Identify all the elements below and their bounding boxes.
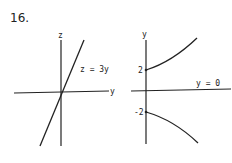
lower-intercept-label: -2 [134,108,144,117]
y-axis-label: y [110,87,115,96]
z-axis-label: z [58,31,63,40]
upper-intercept-label: 2 [138,66,143,75]
line-z-equals-3y [40,40,84,146]
left-figure: z y z = 3y [14,31,115,146]
upper-curve [146,38,197,70]
upper-intercept-point [145,69,148,72]
line-label: z = 3y [80,65,109,74]
asymptote-label: y = 0 [196,79,220,88]
y-axis-label-right: y [142,30,147,39]
figures: z y z = 3y y 2 -2 y = 0 [0,0,232,163]
lower-intercept-point [145,111,148,114]
lower-curve [146,112,198,143]
right-figure: y 2 -2 y = 0 [131,30,231,144]
